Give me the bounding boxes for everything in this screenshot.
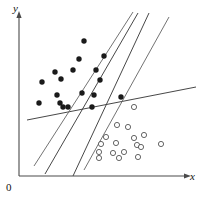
data-point-filled xyxy=(118,94,123,99)
data-point-open xyxy=(110,150,115,155)
data-point-open xyxy=(96,155,101,160)
scatter-plot-canvas: x y 0 xyxy=(0,0,202,198)
data-point-filled xyxy=(76,56,81,61)
data-point-open xyxy=(98,141,103,146)
data-point-open xyxy=(113,140,118,145)
data-point-filled xyxy=(79,90,84,95)
y-axis-label: y xyxy=(12,2,18,14)
data-point-open xyxy=(131,104,136,109)
data-point-filled xyxy=(54,92,59,97)
data-point-filled xyxy=(91,92,96,97)
data-point-open xyxy=(158,141,163,146)
data-point-open xyxy=(103,134,108,139)
data-point-filled xyxy=(89,104,94,109)
steep-line-4 xyxy=(84,17,169,170)
data-point-filled xyxy=(58,76,63,81)
origin-label: 0 xyxy=(6,181,12,193)
data-points-group xyxy=(36,38,163,160)
data-point-filled xyxy=(101,53,106,58)
data-point-open xyxy=(135,154,140,159)
data-point-filled xyxy=(60,104,65,109)
data-point-filled xyxy=(81,38,86,43)
data-point-open xyxy=(114,122,119,127)
data-point-filled xyxy=(65,104,70,109)
series-class-filled xyxy=(36,38,123,109)
data-point-filled xyxy=(93,67,98,72)
data-point-filled xyxy=(97,77,102,82)
data-point-filled xyxy=(36,100,41,105)
data-point-open xyxy=(125,124,130,129)
data-point-open xyxy=(96,149,101,154)
data-point-filled xyxy=(39,79,44,84)
data-point-open xyxy=(121,149,126,154)
scatter-plot-figure: x y 0 xyxy=(0,0,202,198)
data-point-open xyxy=(138,144,143,149)
series-class-open xyxy=(96,104,163,160)
data-point-filled xyxy=(70,67,75,72)
shallow-line xyxy=(27,87,196,120)
data-point-open xyxy=(131,135,136,140)
data-point-open xyxy=(116,155,121,160)
data-point-open xyxy=(141,132,146,137)
x-axis-label: x xyxy=(189,170,195,182)
data-point-filled xyxy=(52,69,57,74)
